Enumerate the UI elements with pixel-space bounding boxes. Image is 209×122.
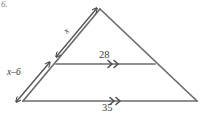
problem-number: 6. — [1, 0, 8, 9]
triangle-outline — [23, 9, 197, 101]
lower-left-measure-arrow-icon — [16, 62, 50, 102]
upper-left-measure-arrow-icon — [56, 8, 97, 57]
triangle-right-side — [100, 9, 197, 101]
base-length-label: 35 — [102, 103, 113, 114]
geometry-figure: 6. x x–6 28 35 — [0, 0, 209, 122]
triangle-left-side — [23, 9, 100, 101]
side-label-x-minus-6: x–6 — [7, 68, 21, 78]
midsegment-length-label: 28 — [99, 50, 110, 61]
